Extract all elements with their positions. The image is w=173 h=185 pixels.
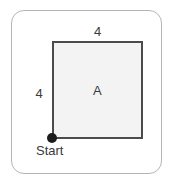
area-label-text: A: [93, 84, 102, 97]
left-side-dimension-label: 4: [30, 87, 48, 100]
start-point-dot-icon: [47, 133, 57, 143]
start-point-label: Start: [36, 144, 63, 158]
geometry-figure: A 4 4 Start: [0, 0, 173, 185]
top-side-dimension-label: 4: [52, 25, 143, 38]
square-interior-label: A: [52, 41, 143, 139]
